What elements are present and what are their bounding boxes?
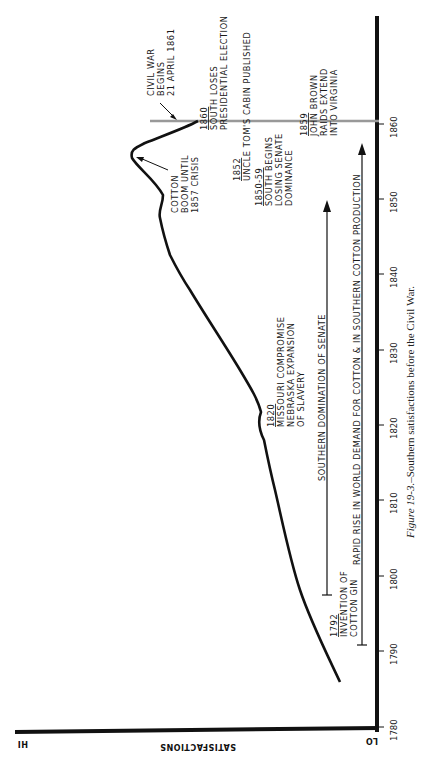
figure-caption: Figure 19-3.–Southern satisfactions befo… <box>404 286 416 539</box>
y-low-label: LO <box>365 736 378 745</box>
annotation-cotton-boom: COTTON <box>170 175 180 213</box>
svg-text:1850: 1850 <box>389 191 399 213</box>
satisfaction-curve <box>132 121 340 682</box>
cotton-demand-label: RAPID RISE IN WORLD DEMAND FOR COTTON & … <box>352 174 362 565</box>
chart: 1780 1790 1800 1810 1820 1830 1840 1850 … <box>0 0 421 772</box>
svg-text:1857 CRISIS: 1857 CRISIS <box>190 156 200 213</box>
y-high-label: HI <box>17 739 28 748</box>
annotation-1792-year: 1792 <box>329 614 339 637</box>
annotation-civil-war: CIVIL WAR <box>146 48 156 96</box>
svg-text:SOUTH BEGINS: SOUTH BEGINS <box>264 137 274 206</box>
svg-text:COTTON GIN: COTTON GIN <box>349 579 359 637</box>
svg-text:BOOM UNTIL: BOOM UNTIL <box>180 155 190 213</box>
annotations: CIVIL WAR BEGINS 21 APRIL 1861 1860 SOUT… <box>146 16 362 637</box>
svg-text:NEBRASKA EXPANSION: NEBRASKA EXPANSION <box>286 323 296 427</box>
svg-text:UNCLE TOM'S CABIN PUBLISHED: UNCLE TOM'S CABIN PUBLISHED <box>242 32 252 181</box>
svg-text:1780: 1780 <box>389 719 399 741</box>
y-axis-title: SATISFACTIONS <box>160 742 236 751</box>
svg-text:INVENTION OF: INVENTION OF <box>339 571 349 637</box>
x-tick-labels: 1780 1790 1800 1810 1820 1830 1840 1850 … <box>389 116 399 741</box>
svg-text:SOUTH LOSES: SOUTH LOSES <box>209 66 219 130</box>
svg-text:1820: 1820 <box>389 417 399 439</box>
annotation-1859-year: 1859 <box>299 113 309 136</box>
svg-text:DOMINANCE: DOMINANCE <box>284 150 294 206</box>
svg-text:RAIDS EXTEND: RAIDS EXTEND <box>319 68 329 136</box>
y-axis <box>15 728 379 732</box>
svg-text:1840: 1840 <box>389 266 399 288</box>
svg-text:1830: 1830 <box>389 342 399 364</box>
svg-text:1800: 1800 <box>389 568 399 590</box>
svg-text:PRESIDENTIAL ELECTION: PRESIDENTIAL ELECTION <box>219 16 229 130</box>
svg-text:21 APRIL 1861: 21 APRIL 1861 <box>166 29 176 96</box>
svg-text:1810: 1810 <box>389 492 399 514</box>
annotation-1820-year: 1820 <box>266 404 276 427</box>
annotation-1852-year: 1852 <box>232 158 242 181</box>
arrowhead-icon <box>358 143 366 155</box>
svg-text:INTO VIRGINIA: INTO VIRGINIA <box>329 69 339 136</box>
svg-text:JOHN BROWN: JOHN BROWN <box>309 74 319 137</box>
svg-text:BEGINS: BEGINS <box>156 62 166 96</box>
svg-text:1860: 1860 <box>389 116 399 138</box>
cotton-boom-pointer <box>140 158 168 170</box>
svg-text:OF SLAVERY: OF SLAVERY <box>296 371 306 427</box>
svg-text:MISSOURI COMPROMISE: MISSOURI COMPROMISE <box>276 316 286 427</box>
arrowhead-icon <box>170 114 177 120</box>
arrowhead-icon <box>136 157 144 162</box>
x-ticks <box>379 124 384 727</box>
annotation-1860-year: 1860 <box>199 107 209 130</box>
arrowhead-icon <box>323 200 331 212</box>
senate-domination-label: SOUTHERN DOMINATION OF SENATE <box>317 314 327 481</box>
annotation-1850-59-year: 1850-59 <box>254 168 264 206</box>
svg-text:LOSING SENATE: LOSING SENATE <box>274 133 284 206</box>
svg-text:1790: 1790 <box>389 643 399 665</box>
